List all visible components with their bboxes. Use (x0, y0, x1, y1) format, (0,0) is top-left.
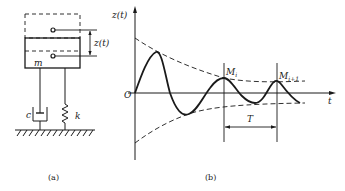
lower-reference-point (51, 54, 55, 58)
z-axis-arrowhead (133, 6, 137, 13)
t-axis-arrowhead (329, 91, 336, 95)
panel-b-response-plot (128, 6, 336, 160)
damper (33, 68, 47, 130)
period-label: T (247, 114, 254, 124)
z-axis-label: z(t) (111, 10, 128, 20)
spring-label: k (75, 111, 80, 121)
response-curve (135, 52, 300, 115)
t-axis-label: t (328, 96, 332, 106)
panel-b-caption: (b) (205, 173, 216, 182)
panel-a-caption: (a) (48, 173, 59, 182)
dashed-initial-position-box (25, 14, 80, 38)
ground (15, 130, 95, 136)
damper-label: c (26, 110, 31, 120)
lower-envelope (135, 103, 305, 143)
peak-i-label: Mi (225, 67, 237, 78)
mass-label: m (34, 58, 43, 68)
origin-label: O (124, 90, 132, 100)
peak-i1-label: Mi+1 (278, 71, 299, 82)
spring (62, 68, 68, 130)
damped-vibration-figure: z(t) m c k (a) z(t) t O Mi Mi+1 T (b) (0, 0, 345, 191)
upper-reference-point (51, 28, 55, 32)
displacement-label: z(t) (93, 38, 110, 48)
